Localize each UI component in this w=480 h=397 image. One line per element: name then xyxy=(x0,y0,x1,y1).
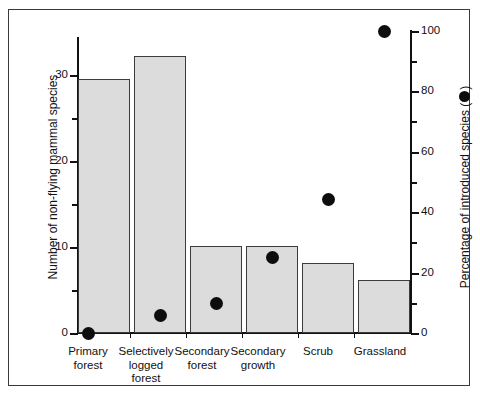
right-tick-20 xyxy=(411,273,419,275)
plot-area: 30 20 10 0 100 80 60 40 20 0 xyxy=(0,0,480,397)
right-tick-40 xyxy=(411,212,419,214)
right-tick-label-20: 20 xyxy=(421,267,434,279)
legend-dot-icon xyxy=(459,91,470,102)
dot-secondary-forest xyxy=(210,297,223,310)
left-tick-0 xyxy=(70,333,78,335)
right-tick-label-60: 60 xyxy=(421,146,434,158)
right-tick-label-0: 0 xyxy=(421,327,427,339)
right-tick-80 xyxy=(411,91,419,93)
category-separator-3 xyxy=(242,332,243,338)
category-label-secondary-growth: Secondary growth xyxy=(220,345,296,372)
right-tick-label-80: 80 xyxy=(421,85,434,97)
bar-primary-forest xyxy=(78,79,130,333)
left-tick-10 xyxy=(70,247,78,249)
dot-secondary-growth xyxy=(266,251,279,264)
dot-scrub xyxy=(322,193,335,206)
category-label-grassland: Grassland xyxy=(340,345,420,359)
dot-selectively-logged-forest xyxy=(154,309,167,322)
left-tick-20 xyxy=(70,161,78,163)
category-separator-5 xyxy=(354,332,355,338)
left-axis-title: Number of non-flying mammal species xyxy=(46,62,60,292)
right-tick-0 xyxy=(411,333,419,335)
category-label-scrub: Scrub xyxy=(288,345,348,359)
dot-primary-forest xyxy=(82,327,95,340)
right-minor-tick-70 xyxy=(411,121,417,123)
right-axis-title-prefix: Percentage of introduced species ( xyxy=(458,103,472,288)
chart-page: 30 20 10 0 100 80 60 40 20 0 xyxy=(0,0,480,397)
bar-grassland xyxy=(358,280,410,333)
right-tick-60 xyxy=(411,152,419,154)
right-minor-tick-90 xyxy=(411,61,417,63)
category-separator-2 xyxy=(186,332,187,338)
category-separator-1 xyxy=(130,332,131,338)
right-axis-title-suffix: ) xyxy=(458,86,472,90)
right-axis-title: Percentage of introduced species () xyxy=(458,62,472,312)
right-tick-label-100: 100 xyxy=(421,25,440,37)
right-tick-100 xyxy=(411,31,419,33)
left-tick-30 xyxy=(70,75,78,77)
left-tick-label-0: 0 xyxy=(62,327,68,339)
bar-selectively-logged-forest xyxy=(134,56,186,333)
dot-grassland xyxy=(378,25,391,38)
right-tick-label-40: 40 xyxy=(421,206,434,218)
bar-scrub xyxy=(302,263,354,333)
category-separator-4 xyxy=(298,332,299,338)
right-minor-tick-50 xyxy=(411,182,417,184)
right-minor-tick-10 xyxy=(411,303,417,305)
right-minor-tick-30 xyxy=(411,242,417,244)
bar-secondary-forest xyxy=(190,246,242,333)
